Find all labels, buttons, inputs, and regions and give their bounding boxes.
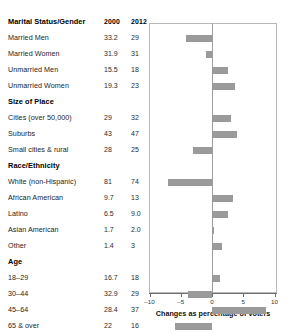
chart-bar bbox=[168, 179, 212, 186]
chart-bar bbox=[212, 307, 266, 314]
chart-bar bbox=[186, 35, 212, 42]
chart-bar bbox=[212, 243, 222, 250]
x-axis-tick-label: 5 bbox=[231, 298, 255, 305]
x-axis-tick-label: 0 bbox=[200, 298, 224, 305]
chart-bar bbox=[212, 131, 237, 138]
chart-bar bbox=[212, 275, 220, 282]
chart-bar bbox=[212, 211, 228, 218]
zero-line bbox=[212, 23, 213, 293]
x-axis-tick-label: –10 bbox=[138, 298, 162, 305]
x-axis-tick bbox=[150, 293, 151, 297]
chart-bar bbox=[212, 83, 235, 90]
x-axis-tick-label: –5 bbox=[169, 298, 193, 305]
chart-bar bbox=[212, 115, 231, 122]
chart-bar bbox=[212, 195, 233, 202]
chart-bar bbox=[193, 147, 212, 154]
x-axis-tick bbox=[212, 293, 213, 297]
x-axis-tick bbox=[243, 293, 244, 297]
x-axis-tick bbox=[181, 293, 182, 297]
chart-bar bbox=[212, 227, 214, 234]
chart-bar bbox=[188, 291, 212, 298]
chart-bar bbox=[206, 51, 212, 58]
x-axis bbox=[149, 293, 277, 294]
chart-bar bbox=[212, 67, 228, 74]
x-axis-tick bbox=[275, 293, 276, 297]
plot-frame bbox=[149, 23, 277, 293]
chart-bar bbox=[175, 323, 213, 330]
x-axis-tick-label: 10 bbox=[263, 298, 287, 305]
